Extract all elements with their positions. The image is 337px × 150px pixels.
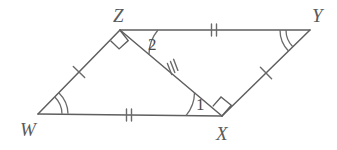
angle-label-2: 2 <box>148 35 157 54</box>
vertex-label-Z: Z <box>113 5 124 26</box>
right-angle-WZX <box>111 30 129 49</box>
angle-arc-X1 <box>186 92 195 115</box>
vertex-label-Y: Y <box>312 5 325 26</box>
angle-label-1: 1 <box>196 95 205 114</box>
geometry-figure: W Z Y X 2 1 <box>0 0 337 150</box>
right-angle-ZXY <box>213 97 232 116</box>
tick-marks-ZX <box>167 59 178 74</box>
vertex-label-W: W <box>20 119 38 140</box>
angle-arc-W <box>55 93 68 114</box>
segment-XW <box>38 114 222 116</box>
vertex-label-X: X <box>215 123 229 144</box>
